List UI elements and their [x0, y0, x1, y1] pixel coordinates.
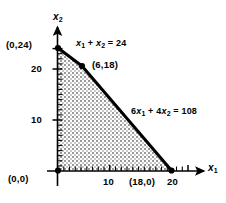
vertex-point-origin [55, 167, 61, 173]
x-axis-label: x1 [208, 163, 218, 174]
vertex-label-6-18: (6,18) [92, 60, 118, 70]
vertex-point-6-18 [79, 63, 85, 69]
vertex-point-0-24 [55, 45, 61, 51]
vertex-label-origin: (0,0) [8, 174, 29, 184]
constraint-equation-1: x1 + x2 = 24 [76, 39, 126, 49]
feasible-region-figure: x2 x1 (0,24) (6,18) (0,0) 20 20 10 10 (1… [0, 0, 226, 203]
y-axis-tick-label-20: 20 [31, 64, 42, 74]
constraint-equation-2: 6x1 + 4x2 = 108 [131, 107, 197, 117]
plot-canvas [0, 0, 226, 203]
vertex-point-18-0 [168, 167, 174, 173]
y-axis-label: x2 [53, 12, 63, 23]
x-axis-tick-label-10: 10 [103, 177, 114, 187]
x-axis-tick-label-20: 20 [167, 177, 178, 187]
vertex-label-0-24: (0,24) [6, 40, 32, 50]
vertex-label-18-0: (18,0) [129, 177, 155, 187]
y-axis-tick-label-10: 10 [31, 115, 42, 125]
